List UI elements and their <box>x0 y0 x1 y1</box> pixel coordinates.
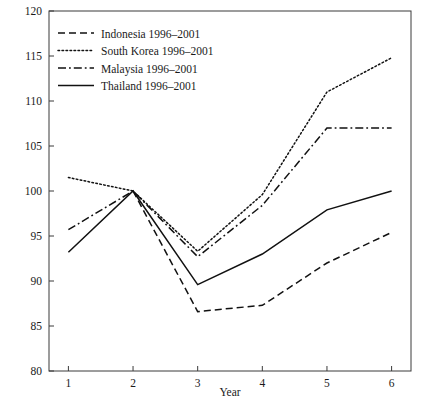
legend-label-thailand: Thailand 1996–2001 <box>101 80 197 92</box>
y-tick-label: 85 <box>31 320 43 332</box>
legend-label-malaysia: Malaysia 1996–2001 <box>101 63 198 76</box>
y-tick-label: 100 <box>25 185 43 197</box>
legend-label-indonesia: Indonesia 1996–2001 <box>101 28 201 40</box>
y-tick-label: 80 <box>31 365 43 377</box>
x-tick-label: 2 <box>130 377 136 389</box>
y-tick-label: 120 <box>25 5 43 17</box>
chart-canvas: 80859095100105110115120 123456 Indonesia… <box>0 0 424 399</box>
line-chart: 80859095100105110115120 123456 Indonesia… <box>0 0 424 399</box>
x-tick-label: 1 <box>66 377 72 389</box>
x-tick-label: 5 <box>324 377 330 389</box>
x-tick-label: 6 <box>389 377 395 389</box>
y-tick-label: 110 <box>25 95 42 107</box>
x-tick-label: 4 <box>259 377 265 389</box>
y-tick-label: 90 <box>31 275 43 287</box>
y-tick-label: 105 <box>25 140 43 152</box>
x-axis-title: Year <box>219 386 240 398</box>
y-tick-label: 95 <box>31 230 43 242</box>
x-tick-label: 3 <box>195 377 201 389</box>
legend-label-south: South Korea 1996–2001 <box>101 45 214 57</box>
y-tick-label: 115 <box>25 50 42 62</box>
